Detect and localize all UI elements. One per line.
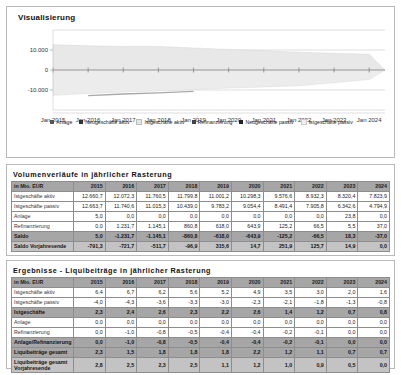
table-cell: 66,5 bbox=[295, 222, 327, 232]
col-header-year: 2018 bbox=[168, 182, 200, 192]
table-cell: -3,3 bbox=[168, 298, 200, 308]
table-cell: 8.320,4 bbox=[326, 192, 358, 202]
legend-swatch-icon bbox=[301, 119, 307, 125]
table-cell: 18,3 bbox=[326, 232, 358, 242]
table-cell: 8.491,4 bbox=[263, 202, 295, 212]
table-cell: -96,9 bbox=[168, 242, 200, 252]
table-cell: 1,5 bbox=[105, 348, 137, 358]
table-cell: 1,6 bbox=[358, 288, 390, 298]
row-label: Istgeschäfte aktiv bbox=[12, 192, 74, 202]
table-cell: 0,7 bbox=[326, 308, 358, 318]
table-cell: 618,0 bbox=[200, 222, 232, 232]
col-header-year: 2016 bbox=[105, 182, 137, 192]
table-cell: 315,6 bbox=[200, 242, 232, 252]
col-header-year: 2018 bbox=[168, 278, 200, 288]
table-cell: 1,8 bbox=[200, 348, 232, 358]
table-cell: 5,2 bbox=[200, 288, 232, 298]
row-label: Istgeschäfte aktiv bbox=[12, 288, 74, 298]
col-header-year: 2020 bbox=[231, 278, 263, 288]
table-row: Refinanzierung0,0-1,0-0,8-0,5-0,4-0,4-0,… bbox=[12, 328, 390, 338]
table-cell: -511,7 bbox=[137, 242, 169, 252]
report-page: Visualisierung 10.0000-10.000Jan 2015Jan… bbox=[0, 0, 401, 375]
table-cell: 11.799,8 bbox=[168, 192, 200, 202]
legend-label: Neugeschäfte aktiv bbox=[85, 119, 129, 125]
table-cell: 0,0 bbox=[137, 318, 169, 328]
table-cell: 0,0 bbox=[358, 318, 390, 328]
table-cell: 5,0 bbox=[74, 212, 106, 222]
table-cell: 0,0 bbox=[231, 318, 263, 328]
table-cell: -1.231,7 bbox=[105, 232, 137, 242]
table-cell: -0,8 bbox=[137, 328, 169, 338]
legend-label: Anlage bbox=[56, 119, 72, 125]
legend-label: Istgeschäfte aktiv bbox=[144, 119, 184, 125]
table-cell: 0,0 bbox=[74, 338, 106, 348]
table-cell: 0,0 bbox=[263, 212, 295, 222]
table-row: Istgeschäfte aktiv12.660,712.072,311.760… bbox=[12, 192, 390, 202]
table-cell: 6.342,6 bbox=[326, 202, 358, 212]
table-row: Istgeschäfte aktiv6,46,76,25,65,24,93,53… bbox=[12, 288, 390, 298]
row-label: Istgeschäfte bbox=[12, 308, 74, 318]
table-cell: 37,0 bbox=[358, 222, 390, 232]
table-cell: 5,0 bbox=[74, 232, 106, 242]
table-cell: 8.932,3 bbox=[295, 192, 327, 202]
table-cell: 2,4 bbox=[105, 308, 137, 318]
table-cell: 10.298,3 bbox=[231, 192, 263, 202]
legend-item-neugeschaefte-passiv: Neugeschäfte passiv bbox=[239, 119, 293, 125]
col-header-year: 2019 bbox=[200, 278, 232, 288]
table-cell: -0,4 bbox=[200, 328, 232, 338]
table-row: Istgeschäfte2,32,42,62,32,22,61,41,20,70… bbox=[12, 308, 390, 318]
row-label: Istgeschäfte passiv bbox=[12, 202, 74, 212]
table-cell: 1,8 bbox=[168, 348, 200, 358]
volumen-table-block: Volumenverläufe in jährlicher Rasterung … bbox=[6, 164, 395, 256]
table-cell: 2,3 bbox=[137, 358, 169, 373]
legend-label: Istgeschäfte passiv bbox=[309, 119, 353, 125]
table-cell: -0,4 bbox=[200, 338, 232, 348]
legend-item-anlage: Anlage bbox=[50, 119, 72, 125]
table-cell: 0,8 bbox=[358, 308, 390, 318]
ergebnisse-table: in Mio. EUR 2015 2016 2017 2018 2019 202… bbox=[11, 277, 390, 373]
table-cell: 0,5 bbox=[326, 358, 358, 373]
table-cell: 0,0 bbox=[358, 328, 390, 338]
table-cell: 0,0 bbox=[231, 212, 263, 222]
table-row: Liquibeiträge gesamt Vorjahresende2,82,5… bbox=[12, 358, 390, 373]
table-row: Saldo5,0-1.231,7-1.145,1-860,8-618,0-643… bbox=[12, 232, 390, 242]
table-cell: -0,8 bbox=[358, 298, 390, 308]
table-cell: 0,0 bbox=[358, 212, 390, 222]
table-cell: 12.660,7 bbox=[74, 192, 106, 202]
volumen-table: in Mio. EUR 2015 2016 2017 2018 2019 202… bbox=[11, 181, 390, 252]
table-cell: 2,0 bbox=[326, 288, 358, 298]
table-cell: 0,0 bbox=[105, 318, 137, 328]
table-cell: -1,3 bbox=[326, 298, 358, 308]
table-cell: 0,0 bbox=[74, 318, 106, 328]
table-cell: 125,7 bbox=[295, 242, 327, 252]
table-cell: 0,0 bbox=[168, 212, 200, 222]
row-label: Anlage/Refinanzierung bbox=[12, 338, 74, 348]
table-cell: -1,0 bbox=[105, 338, 137, 348]
legend-item-istgeschaefte-passiv: Istgeschäfte passiv bbox=[301, 119, 353, 125]
col-header-year: 2022 bbox=[295, 278, 327, 288]
table-cell: 0,0 bbox=[358, 338, 390, 348]
table-cell: 1,2 bbox=[295, 308, 327, 318]
col-header-year: 2016 bbox=[105, 278, 137, 288]
table-cell: 0,0 bbox=[295, 318, 327, 328]
table-cell: 0,0 bbox=[74, 328, 106, 338]
table-cell: -125,2 bbox=[263, 232, 295, 242]
row-label: Saldo bbox=[12, 232, 74, 242]
table-cell: 7.905,8 bbox=[295, 202, 327, 212]
legend-swatch-icon bbox=[50, 120, 54, 124]
table-cell: 0,0 bbox=[358, 242, 390, 252]
table-cell: 12.072,3 bbox=[105, 192, 137, 202]
table-cell: -1,8 bbox=[295, 298, 327, 308]
legend-label: Neugeschäfte passiv bbox=[245, 119, 293, 125]
table-cell: -3,6 bbox=[137, 298, 169, 308]
table-cell: -860,8 bbox=[168, 232, 200, 242]
table-cell: -1,0 bbox=[105, 328, 137, 338]
table-cell: 860,8 bbox=[168, 222, 200, 232]
col-header-year: 2024 bbox=[358, 278, 390, 288]
ergebnisse-table-body: Istgeschäfte aktiv6,46,76,25,65,24,93,53… bbox=[12, 288, 390, 373]
table-cell: -2,3 bbox=[231, 298, 263, 308]
table-cell: 7.823,9 bbox=[358, 192, 390, 202]
table-cell: -0,5 bbox=[168, 328, 200, 338]
table-cell: 0,0 bbox=[200, 318, 232, 328]
col-header-year: 2023 bbox=[326, 278, 358, 288]
